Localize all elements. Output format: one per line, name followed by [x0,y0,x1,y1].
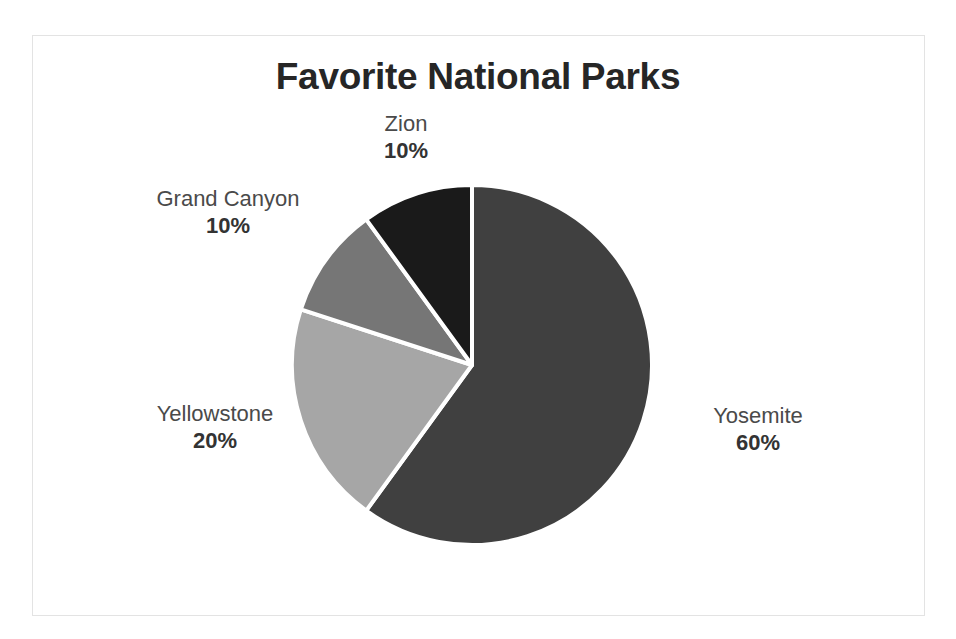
data-label-zion-percent: 10% [306,138,506,165]
data-label-zion-category: Zion [306,111,506,138]
data-label-yosemite: Yosemite 60% [608,403,908,457]
data-label-grand-canyon-category: Grand Canyon [78,186,378,213]
data-label-zion: Zion 10% [306,111,506,165]
pie-chart-screenshot: Favorite National Parks Zion 10% Grand C… [0,0,956,639]
data-label-grand-canyon: Grand Canyon 10% [78,186,378,240]
data-label-grand-canyon-percent: 10% [78,213,378,240]
data-label-yellowstone-category: Yellowstone [50,401,380,428]
data-label-yellowstone: Yellowstone 20% [50,401,380,455]
data-label-yosemite-category: Yosemite [608,403,908,430]
data-label-yellowstone-percent: 20% [50,428,380,455]
chart-title: Favorite National Parks [0,58,956,97]
data-label-yosemite-percent: 60% [608,430,908,457]
